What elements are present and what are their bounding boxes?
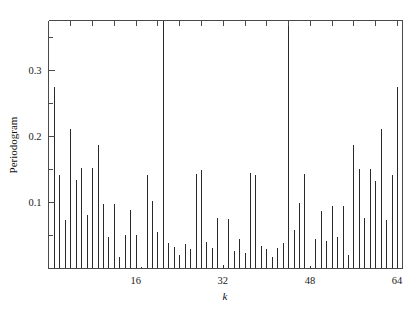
axis-ticks <box>49 21 398 236</box>
x-tick-label: 32 <box>218 275 229 286</box>
x-tick-label: 64 <box>392 275 403 286</box>
axis-tick-labels: 0.10.20.316324864 <box>28 65 403 286</box>
x-tick-label: 16 <box>130 275 141 286</box>
y-tick-label: 0.3 <box>28 65 41 76</box>
periodogram-figure: 0.10.20.316324864 Periodogram k <box>0 0 420 321</box>
y-tick-label: 0.2 <box>28 131 41 142</box>
spike-series <box>55 21 398 269</box>
y-axis-title: Periodogram <box>7 116 19 173</box>
axes-frame <box>49 21 403 269</box>
y-tick-label: 0.1 <box>28 197 41 208</box>
x-axis-title: k <box>223 290 229 302</box>
periodogram-plot: 0.10.20.316324864 Periodogram k <box>0 0 420 321</box>
x-tick-label: 48 <box>305 275 316 286</box>
